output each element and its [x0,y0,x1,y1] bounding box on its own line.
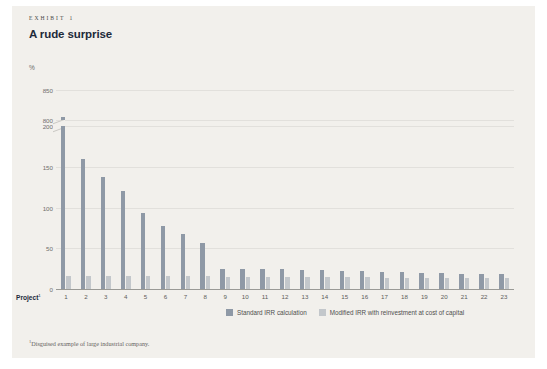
x-axis-tick-label: 20 [434,293,454,300]
x-axis-tick-label: 23 [494,293,514,300]
bar-modified [345,277,349,289]
x-axis-tick-label: 12 [275,293,295,300]
bar-standard [320,270,324,289]
bar-group [400,90,410,289]
bar-standard [141,213,145,289]
bar-group [380,90,390,289]
legend-item: Modified IRR with reinvestment at cost o… [319,309,464,316]
bar-group [479,90,489,289]
x-axis-tick-label: 15 [335,293,355,300]
bar-group [280,90,290,289]
x-axis-tick-label: 9 [215,293,235,300]
bar-group [240,90,250,289]
screenshot-root: EXHIBIT1 A rude surprise % 0501001502008… [0,0,547,369]
x-axis-tick-label: 19 [414,293,434,300]
page-title: A rude surprise [29,28,112,40]
bar-modified [106,276,110,289]
bar-modified [305,277,309,289]
bar-groups [56,90,514,289]
x-axis-tick-label: 16 [355,293,375,300]
bar-standard [380,272,384,289]
y-axis-tick-label: 200 [43,123,53,130]
exhibit-number: 1 [69,15,72,21]
bar-modified [246,277,250,289]
bar-standard [181,234,185,289]
bar-group [141,90,151,289]
x-axis-tick-label: 17 [375,293,395,300]
x-axis-tick-label: 7 [175,293,195,300]
footnote: 1Disguised example of large industrial c… [29,339,149,347]
x-axis-tick-label: 14 [315,293,335,300]
bar-standard [479,274,483,289]
x-axis-tick-label: 5 [136,293,156,300]
bar-modified [266,277,270,289]
bar-standard [439,273,443,289]
bar-modified [505,278,509,289]
y-axis-tick-label: 0 [50,286,53,293]
bar-standard [260,269,264,289]
y-axis-tick-label: 800 [43,117,53,124]
x-axis-tick-label: 18 [395,293,415,300]
bar-group [439,90,449,289]
bar-modified [146,276,150,289]
bar-standard [360,271,364,289]
bar-standard [300,270,304,289]
bar-group [81,90,91,289]
bar-group [121,90,131,289]
bar-modified [445,278,449,289]
bar-group [260,90,270,289]
bar-group [61,90,71,289]
legend-swatch-icon [319,309,326,316]
bar-standard [121,191,125,289]
bar-modified [405,278,409,289]
bar-group [200,90,210,289]
x-axis-tick-label: 13 [295,293,315,300]
bar-group [101,90,111,289]
bar-modified [425,278,429,289]
bar-modified [325,277,329,289]
legend-label: Modified IRR with reinvestment at cost o… [330,309,464,316]
x-axis-label-footnote-marker: 1 [38,293,40,298]
bar-modified [365,277,369,289]
legend-label: Standard IRR calculation [237,309,307,316]
x-axis-tick-label: 21 [454,293,474,300]
bar-standard [220,269,224,289]
x-axis-tick-label: 8 [195,293,215,300]
y-axis-tick-label: 150 [43,163,53,170]
bar-group [360,90,370,289]
bar-modified [285,277,289,289]
bar-group [499,90,509,289]
bar-standard [499,274,503,289]
exhibit-prefix: EXHIBIT [29,15,65,21]
bar-group [181,90,191,289]
bar-standard [280,269,284,289]
x-axis-tick-label: 22 [474,293,494,300]
legend-item: Standard IRR calculation [226,309,307,316]
x-axis-label-text: Project [16,294,38,301]
exhibit-card: EXHIBIT1 A rude surprise % 0501001502008… [12,6,535,358]
y-axis-tick-label: 850 [43,87,53,94]
y-axis-tick-label: 50 [46,245,53,252]
legend-swatch-icon [226,309,233,316]
x-axis-tick-label: 2 [76,293,96,300]
bar-group [459,90,469,289]
x-axis-tick-label: 6 [156,293,176,300]
y-axis-tick-label: 100 [43,204,53,211]
bar-modified [385,278,389,289]
bar-modified [186,276,190,289]
x-axis-tick-label: 10 [235,293,255,300]
legend: Standard IRR calculationModified IRR wit… [226,309,464,316]
bar-group [220,90,230,289]
bar-group [340,90,350,289]
bar-standard [459,274,463,289]
bar-group [419,90,429,289]
bar-standard [161,226,165,289]
bar-standard [400,272,404,289]
bar-group [320,90,330,289]
bar-modified [465,278,469,289]
bar-standard [419,273,423,289]
x-axis-tick-label: 3 [96,293,116,300]
bar-standard [61,126,65,289]
footnote-text: Disguised example of large industrial co… [31,340,149,347]
x-axis-baseline [56,289,514,290]
